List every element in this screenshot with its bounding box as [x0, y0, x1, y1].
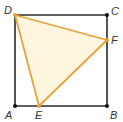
label-a: A: [4, 109, 12, 121]
label-c: C: [111, 5, 119, 17]
point-e: [37, 104, 41, 108]
point-c: [105, 13, 109, 17]
point-a: [13, 104, 17, 108]
geometry-diagram: D C F A E B: [0, 0, 123, 122]
label-e: E: [35, 109, 43, 121]
point-f: [105, 38, 109, 42]
label-d: D: [4, 4, 12, 16]
label-f: F: [111, 34, 119, 46]
label-b: B: [110, 109, 117, 121]
point-d: [13, 13, 17, 17]
triangle-def: [15, 15, 107, 106]
point-b: [105, 104, 109, 108]
